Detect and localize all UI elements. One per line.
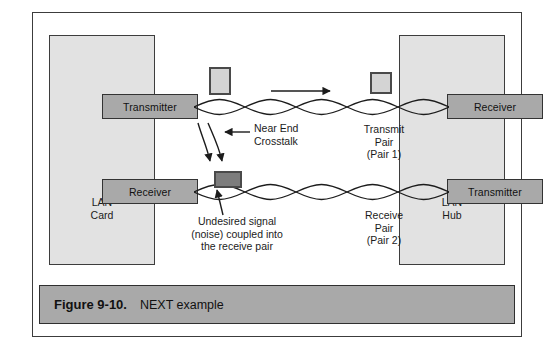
undesired-signal-label: Undesired signal (noise) coupled into th… [167,215,307,253]
lan-hub-receiver-label: Receiver [474,101,516,113]
lan-hub-receiver-block: Receiver [447,94,543,119]
noise-packet-icon [214,171,242,188]
figure-frame: LAN Card Transmitter Receiver LAN Hub Re… [32,12,522,337]
transmit-packet-far-icon [370,72,392,94]
near-end-crosstalk-label: Near End Crosstalk [254,122,298,147]
lan-card-receiver-label: Receiver [129,186,171,198]
transmit-pair-label: Transmit Pair (Pair 1) [339,123,429,161]
transmit-pair-cable [194,95,449,119]
crosstalk-arrow-1 [198,123,210,161]
lan-card-transmitter-label: Transmitter [123,101,177,113]
lan-card-receiver-block: Receiver [102,179,198,204]
figure-number: Figure 9-10. [54,297,127,312]
diagram-canvas: LAN Card Transmitter Receiver LAN Hub Re… [39,19,515,277]
lan-hub-transmitter-block: Transmitter [447,179,543,204]
crosstalk-arrow-2 [208,123,222,161]
receive-pair-label: Receive Pair (Pair 2) [339,209,429,247]
figure-caption-bar: Figure 9-10. NEXT example [39,285,515,324]
lan-card-transmitter-block: Transmitter [102,94,198,119]
transmit-packet-near-icon [209,67,231,95]
lan-card-enclosure: LAN Card [49,35,155,265]
lan-hub-transmitter-label: Transmitter [468,186,522,198]
figure-title: NEXT example [140,298,224,312]
